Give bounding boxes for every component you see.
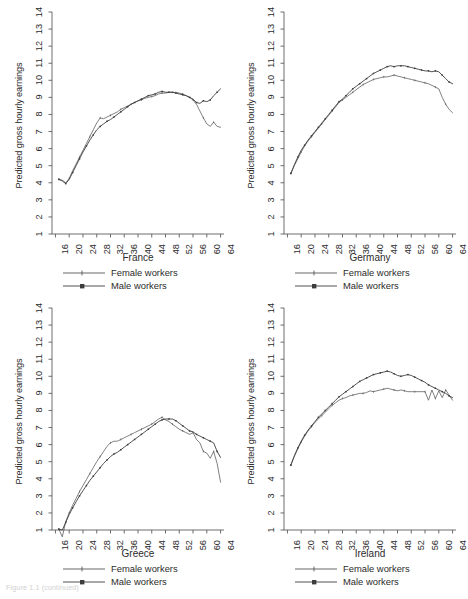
y-axis-label: Predicted gross hourly earnings: [14, 18, 28, 233]
plot-area: [52, 308, 224, 530]
y-tick-label: 2: [264, 210, 278, 224]
y-tick-label: 2: [264, 506, 278, 520]
y-tick-label: 9: [264, 90, 278, 104]
panel-greece: Predicted gross hourly earnings 12345678…: [0, 296, 231, 595]
y-tick-label: 4: [264, 176, 278, 190]
y-tick-label: 9: [32, 90, 46, 104]
y-tick-label: 10: [32, 369, 46, 383]
y-tick-label: 8: [264, 403, 278, 417]
plot-svg: [52, 308, 224, 530]
y-tick-label: 13: [32, 22, 46, 36]
y-tick-label: 7: [32, 125, 46, 139]
y-tick-label: 7: [32, 421, 46, 435]
y-axis-label: Predicted gross hourly earnings: [14, 314, 28, 529]
y-tick-label: 6: [32, 142, 46, 156]
legend-item-male: Male workers: [294, 279, 466, 292]
y-tick-label: 6: [264, 438, 278, 452]
y-tick-label: 12: [32, 39, 46, 53]
y-tick-label: 11: [264, 352, 278, 366]
y-tick-label: 14: [264, 5, 278, 19]
y-tick-label: 3: [32, 193, 46, 207]
y-tick-label: 6: [264, 142, 278, 156]
legend: Female workers Male workers: [294, 562, 466, 588]
panel-title: Germany: [284, 252, 456, 263]
plot-svg: [284, 308, 456, 530]
female-line-key-icon: [62, 268, 106, 278]
female-line-key-icon: [294, 268, 338, 278]
legend-label-female: Female workers: [343, 563, 410, 574]
panel-title: Greece: [52, 548, 224, 559]
y-tick-label: 4: [32, 472, 46, 486]
legend-label-male: Male workers: [343, 280, 399, 291]
figure-caption: Figure 1.1 (continued): [6, 584, 79, 591]
y-tick-label: 1: [32, 523, 46, 537]
y-tick-label: 12: [32, 335, 46, 349]
y-tick-label: 14: [264, 301, 278, 315]
x-tick-label: 64: [458, 540, 468, 550]
y-tick-label: 2: [32, 210, 46, 224]
plot-svg: [52, 12, 224, 234]
y-tick-label: 12: [264, 39, 278, 53]
y-tick-label: 1: [264, 523, 278, 537]
y-tick-label: 7: [264, 125, 278, 139]
y-tick-label: 4: [264, 472, 278, 486]
plot-area: [52, 12, 224, 234]
y-tick-label: 7: [264, 421, 278, 435]
y-tick-label: 11: [32, 352, 46, 366]
male-line-key-icon: [62, 281, 106, 291]
y-tick-label: 5: [32, 159, 46, 173]
y-tick-label: 8: [32, 107, 46, 121]
y-tick-label: 13: [264, 22, 278, 36]
legend-label-male: Male workers: [111, 280, 167, 291]
x-tick-label: 64: [458, 244, 468, 254]
male-line-key-icon: [294, 281, 338, 291]
y-tick-label: 5: [264, 159, 278, 173]
y-tick-label: 8: [264, 107, 278, 121]
panel-germany: Predicted gross hourly earnings 12345678…: [232, 0, 463, 299]
y-tick-label: 8: [32, 403, 46, 417]
y-tick-label: 9: [264, 386, 278, 400]
y-axis-label: Predicted gross hourly earnings: [246, 314, 260, 529]
female-line-key-icon: [294, 564, 338, 574]
legend-label-male: Male workers: [111, 576, 167, 587]
y-tick-label: 10: [264, 369, 278, 383]
panel-title: Ireland: [284, 548, 456, 559]
y-tick-label: 4: [32, 176, 46, 190]
male-line-key-icon: [294, 577, 338, 587]
y-tick-label: 1: [264, 227, 278, 241]
plot-svg: [284, 12, 456, 234]
y-tick-label: 14: [32, 5, 46, 19]
y-tick-label: 11: [32, 56, 46, 70]
y-tick-label: 5: [32, 455, 46, 469]
y-tick-label: 2: [32, 506, 46, 520]
plot-area: [284, 12, 456, 234]
y-tick-label: 5: [264, 455, 278, 469]
y-tick-label: 12: [264, 335, 278, 349]
panel-france: Predicted gross hourly earnings 12345678…: [0, 0, 231, 299]
legend-item-male: Male workers: [294, 575, 466, 588]
legend-item-female: Female workers: [62, 562, 234, 575]
legend-item-female: Female workers: [62, 266, 234, 279]
y-axis-label: Predicted gross hourly earnings: [246, 18, 260, 233]
plot-area: [284, 308, 456, 530]
y-tick-label: 13: [32, 318, 46, 332]
legend: Female workers Male workers: [62, 266, 234, 292]
y-tick-label: 14: [32, 301, 46, 315]
legend-item-female: Female workers: [294, 266, 466, 279]
female-line-key-icon: [62, 564, 106, 574]
y-tick-label: 10: [264, 73, 278, 87]
legend-label-female: Female workers: [343, 267, 410, 278]
legend-label-male: Male workers: [343, 576, 399, 587]
panel-ireland: Predicted gross hourly earnings 12345678…: [232, 296, 463, 595]
y-tick-label: 3: [264, 193, 278, 207]
legend-item-male: Male workers: [62, 279, 234, 292]
legend-item-male: Male workers: [62, 575, 234, 588]
y-tick-label: 3: [32, 489, 46, 503]
legend-label-female: Female workers: [111, 563, 178, 574]
legend: Female workers Male workers: [62, 562, 234, 588]
y-tick-label: 10: [32, 73, 46, 87]
y-tick-label: 13: [264, 318, 278, 332]
y-tick-label: 6: [32, 438, 46, 452]
y-tick-label: 9: [32, 386, 46, 400]
